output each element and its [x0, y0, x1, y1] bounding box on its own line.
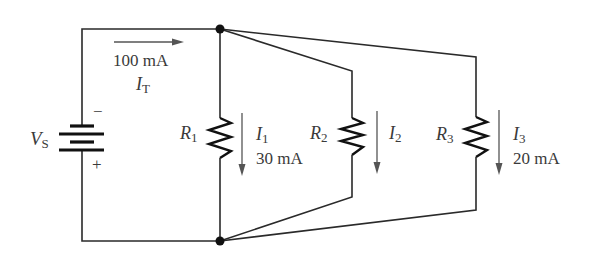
bottom-left-wire: [82, 150, 220, 241]
circuit-diagram: − + VS 100 mA IT R1 I1 30 mA R2 I2 R3: [0, 0, 596, 260]
resistor-r3-label: R3: [435, 124, 454, 146]
current-i1-value: 30 mA: [256, 149, 303, 168]
current-i3-arrow-icon: [496, 110, 503, 175]
top-left-wire: [82, 29, 220, 126]
total-current-arrow-icon: [114, 39, 184, 46]
current-i1-label: I1: [255, 124, 269, 146]
total-current-label: IT: [135, 74, 150, 96]
current-i3-value: 20 mA: [513, 149, 560, 168]
current-i2-label: I2: [388, 123, 402, 145]
resistor-r2-label: R2: [309, 123, 328, 145]
resistor-r1-icon: [209, 118, 231, 158]
top-junction-node: [216, 25, 225, 34]
battery-icon: [59, 126, 104, 150]
resistor-r1-label: R1: [179, 123, 198, 145]
source-minus-label: −: [93, 102, 103, 121]
source-label: VS: [30, 128, 49, 151]
total-current-value: 100 mA: [113, 51, 169, 70]
bottom-junction-node: [216, 237, 225, 246]
current-i1-arrow-icon: [239, 113, 246, 176]
source-plus-label: +: [92, 155, 102, 174]
current-i2-arrow-icon: [374, 111, 381, 174]
resistor-r2-icon: [341, 118, 363, 155]
current-i3-label: I3: [512, 124, 526, 146]
branch-1: [209, 29, 231, 241]
resistor-r3-icon: [465, 117, 487, 157]
